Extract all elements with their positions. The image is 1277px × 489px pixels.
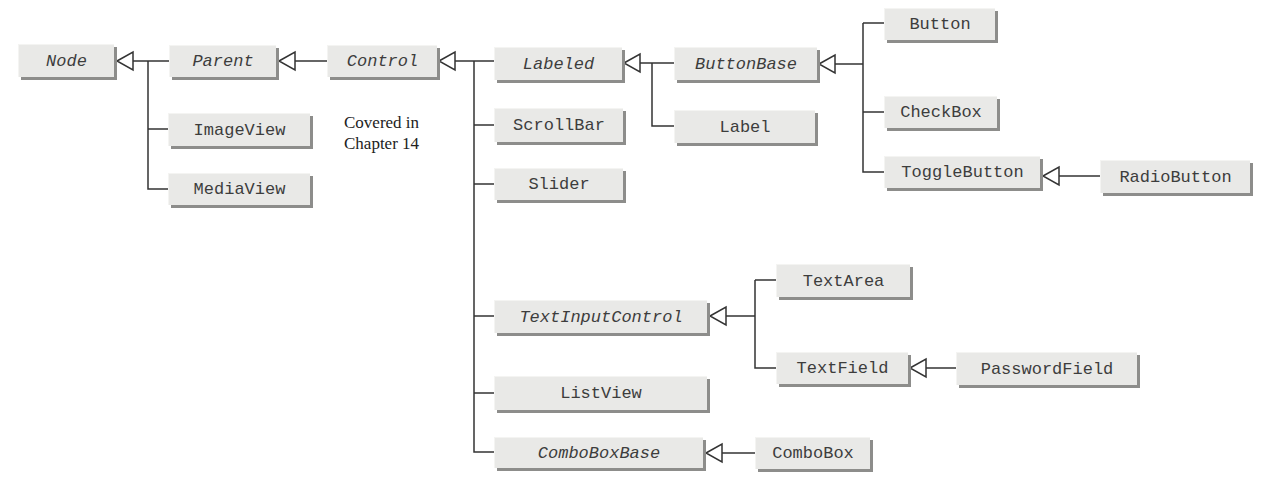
connector-togglebutton-buttonbase (863, 23, 884, 172)
chapter-note-line-2: Chapter 14 (344, 133, 419, 154)
connector-textfield-textinputcontrol (755, 280, 776, 368)
inheritance-arrow-labeled (624, 54, 640, 72)
class-scrollbar: ScrollBar (494, 108, 623, 142)
class-textfield: TextField (776, 352, 908, 384)
class-slider: Slider (494, 168, 623, 200)
class-radiobutton: RadioButton (1100, 160, 1250, 193)
class-control: Control (327, 45, 437, 77)
inheritance-arrow-textfield (910, 359, 926, 377)
class-mediaview: MediaView (168, 173, 310, 205)
inheritance-arrow-comboboxbase (706, 444, 722, 462)
inheritance-arrow-buttonbase (819, 55, 835, 73)
class-parent: Parent (169, 45, 276, 77)
class-togglebutton: ToggleButton (884, 156, 1040, 188)
class-label: Label (674, 110, 815, 143)
chapter-note: Covered in Chapter 14 (344, 112, 419, 154)
connector-mediaview-node (148, 61, 168, 189)
connector-label-labeled (652, 63, 674, 126)
class-imageview: ImageView (168, 113, 310, 146)
class-node: Node (18, 44, 114, 77)
class-textarea: TextArea (776, 264, 910, 297)
inheritance-arrow-node (117, 52, 133, 70)
inheritance-arrow-togglebutton (1043, 167, 1059, 185)
class-checkbox: CheckBox (884, 96, 997, 128)
class-button: Button (884, 8, 995, 40)
class-hierarchy-diagram: Node Parent Control ImageView MediaView … (0, 0, 1277, 489)
inheritance-arrow-parent (279, 52, 295, 70)
class-passwordfield: PasswordField (956, 352, 1137, 385)
class-listview: ListView (494, 376, 707, 410)
class-buttonbase: ButtonBase (674, 47, 817, 80)
inheritance-arrow-control (439, 52, 455, 70)
class-combobox: ComboBox (755, 437, 870, 469)
class-comboboxbase: ComboBoxBase (494, 437, 703, 468)
inheritance-arrow-textinputcontrol (710, 307, 726, 325)
chapter-note-line-1: Covered in (344, 112, 419, 133)
class-textinputcontrol: TextInputControl (494, 300, 707, 333)
class-labeled: Labeled (494, 47, 622, 80)
